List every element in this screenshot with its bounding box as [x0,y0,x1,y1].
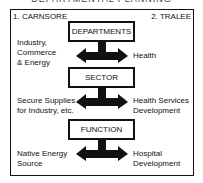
double-arrow-icon [76,140,128,162]
label-carnsore: 1. CARNSORE [13,12,67,21]
double-arrow-icon [76,88,128,110]
departments-box: DEPARTMENTS [68,21,135,42]
label-tralee: 2. TRALEE [151,12,191,21]
sector-box: SECTOR [68,67,135,88]
function-right-label: HospitalDevelopment [133,149,180,169]
function-box: FUNCTION [68,119,135,140]
double-arrow-icon [76,42,128,64]
sector-right-label: Health ServicesDevelopment [133,96,189,116]
dept-right-label: Health [133,51,156,61]
function-left-label: Native EnergySource [17,149,67,169]
sector-left-label: Secure Suppliesfor Industry, etc. [17,96,75,116]
diagram-title: DEPARTMENTAL PLANNING [0,0,203,4]
dept-left-label: Industry,Commerce& Energy [17,38,56,68]
